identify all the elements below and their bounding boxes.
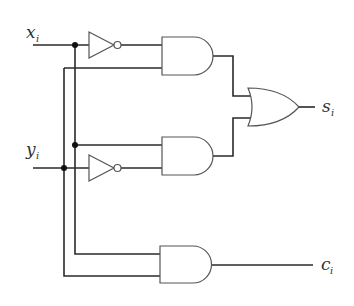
svg-text:s: s bbox=[322, 96, 331, 116]
input-label-y: y i bbox=[25, 139, 39, 161]
input-label-x: x i bbox=[26, 22, 39, 44]
wire-y-to-and3 bbox=[64, 68, 160, 276]
and-gate-2 bbox=[162, 137, 213, 175]
output-label-c: c i bbox=[321, 254, 333, 276]
junction-dot bbox=[61, 165, 67, 171]
wire-x-to-and3 bbox=[75, 45, 160, 254]
and-gate-3 bbox=[160, 246, 212, 283]
not-gate-y bbox=[89, 155, 121, 181]
svg-text:i: i bbox=[36, 33, 39, 44]
junction-dot bbox=[72, 42, 78, 48]
output-label-s: s i bbox=[322, 96, 334, 118]
svg-text:i: i bbox=[36, 150, 39, 161]
svg-text:i: i bbox=[331, 107, 334, 118]
svg-text:x: x bbox=[26, 22, 36, 42]
or-gate bbox=[248, 88, 299, 126]
svg-text:y: y bbox=[25, 139, 36, 159]
and-gate-1 bbox=[162, 37, 213, 75]
half-adder-circuit: x i y i s i c i bbox=[0, 0, 354, 306]
svg-text:i: i bbox=[330, 265, 333, 276]
wire-and2-to-or bbox=[213, 118, 252, 156]
wire-and1-to-or bbox=[213, 56, 252, 96]
not-gate-x bbox=[89, 32, 121, 58]
junction-dot bbox=[72, 142, 78, 148]
